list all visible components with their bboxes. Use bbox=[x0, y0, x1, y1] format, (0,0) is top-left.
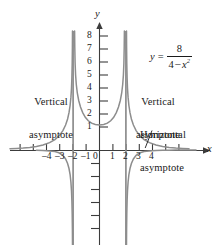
y-axis-arrow bbox=[96, 22, 102, 29]
denominator-minus-sign: – bbox=[175, 58, 180, 69]
equation-denominator: 4–x2 bbox=[167, 57, 192, 70]
y-tick-label-1: 1 bbox=[87, 122, 92, 132]
y-tick-label-8: 8 bbox=[87, 31, 92, 41]
annotation-line-1: Vertical bbox=[129, 96, 187, 107]
equation-numerator: 8 bbox=[174, 44, 185, 56]
y-axis-label: y bbox=[95, 8, 100, 19]
y-tick-label-3: 3 bbox=[87, 96, 92, 106]
annotation-line-2: asymptote bbox=[140, 162, 210, 173]
curve-branch-left-lower bbox=[36, 150, 72, 245]
y-tick-label-4: 4 bbox=[87, 83, 92, 93]
y-tick-label-7: 7 bbox=[87, 44, 92, 54]
x-tick-label-0: 0 bbox=[93, 152, 98, 162]
y-tick-label-6: 6 bbox=[87, 57, 92, 67]
function-graph-figure: x y –4 –3 –2 –1 0 1 2 3 4 1 2 3 4 5 6 7 … bbox=[0, 0, 224, 245]
annotation-line-1: Vertical bbox=[22, 96, 80, 107]
denominator-constant: 4 bbox=[169, 58, 174, 69]
x-tick-label-2: 2 bbox=[123, 152, 128, 162]
annotation-vertical-asymptote-left: Vertical asymptote bbox=[22, 74, 80, 162]
y-tick-label-5: 5 bbox=[87, 70, 92, 80]
annotation-line-1: Horizontal bbox=[140, 129, 210, 140]
equation-equals-sign: = bbox=[158, 51, 164, 62]
equation-fraction: 8 4–x2 bbox=[167, 44, 192, 70]
equation-label: y = 8 4–x2 bbox=[150, 44, 192, 70]
x-tick-label--1: –1 bbox=[81, 152, 91, 162]
annotation-line-2: asymptote bbox=[22, 129, 80, 140]
denominator-exponent: 2 bbox=[187, 57, 190, 64]
y-tick-label-2: 2 bbox=[87, 109, 92, 119]
annotation-horizontal-asymptote: Horizontal asymptote bbox=[140, 107, 210, 195]
x-tick-label-1: 1 bbox=[110, 152, 115, 162]
equation-lhs: y bbox=[150, 51, 155, 62]
